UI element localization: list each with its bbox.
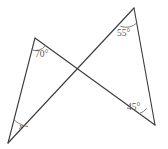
- angle-label-bottom-left: x: [18, 121, 23, 131]
- angle-label-top-left: 70°: [35, 49, 49, 59]
- angle-arc-bottom-right: [139, 109, 146, 114]
- geometry-figure: 70° 55° 45° x: [0, 0, 168, 149]
- angle-arc-top-right: [121, 23, 137, 28]
- angle-label-top-right: 55°: [117, 28, 131, 38]
- angle-label-bottom-right: 45°: [127, 102, 141, 112]
- segment-right-triangle-long-edge: [8, 8, 134, 143]
- figure-canvas: 70° 55° 45° x: [0, 0, 168, 149]
